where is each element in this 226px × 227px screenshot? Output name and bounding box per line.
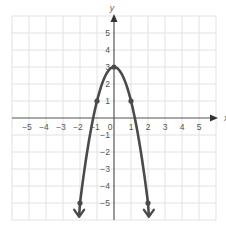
x-tick-label: 1 bbox=[129, 122, 134, 132]
x-tick-label: 4 bbox=[180, 122, 185, 132]
curve-point bbox=[111, 64, 116, 69]
y-tick-label: −3 bbox=[100, 164, 110, 174]
x-tick-label: 5 bbox=[197, 122, 202, 132]
x-axis-label: x bbox=[223, 113, 226, 123]
x-tick-label: −4 bbox=[39, 122, 49, 132]
y-axis-arrow-icon bbox=[111, 14, 118, 22]
y-tick-label: −2 bbox=[100, 147, 110, 157]
y-tick-label: 2 bbox=[105, 79, 110, 89]
x-tick-label: −3 bbox=[56, 122, 66, 132]
parabola-graph: xy−5−4−3−2−101234554321−1−2−3−4−5 bbox=[0, 0, 226, 227]
y-tick-label: 1 bbox=[105, 96, 110, 106]
y-tick-label: −1 bbox=[100, 130, 110, 140]
curve-point bbox=[94, 98, 99, 103]
y-tick-label: 4 bbox=[105, 45, 110, 55]
y-tick-label: −4 bbox=[100, 181, 110, 191]
y-axis-label: y bbox=[109, 3, 115, 13]
x-tick-label: 3 bbox=[163, 122, 168, 132]
y-tick-label: −5 bbox=[100, 198, 110, 208]
curve-point bbox=[145, 200, 150, 205]
x-axis-arrow-icon bbox=[210, 115, 218, 122]
x-tick-label: 2 bbox=[146, 122, 151, 132]
y-tick-label: 5 bbox=[105, 28, 110, 38]
curve-point bbox=[77, 200, 82, 205]
x-tick-label: −2 bbox=[73, 122, 83, 132]
x-tick-label: −5 bbox=[22, 122, 32, 132]
curve-point bbox=[128, 98, 133, 103]
